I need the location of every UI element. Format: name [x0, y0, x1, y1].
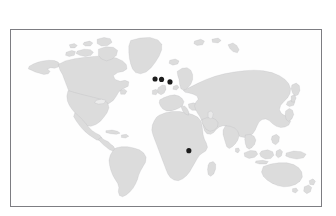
marker-western-europe-low-countries[interactable] — [159, 77, 164, 82]
map-frame — [10, 29, 322, 207]
world-map-figure — [0, 0, 336, 216]
marker-east-africa[interactable] — [186, 148, 191, 153]
marker-western-europe-british-isles[interactable] — [152, 76, 157, 81]
map-canvas — [11, 30, 321, 206]
marker-central-europe[interactable] — [167, 79, 172, 84]
